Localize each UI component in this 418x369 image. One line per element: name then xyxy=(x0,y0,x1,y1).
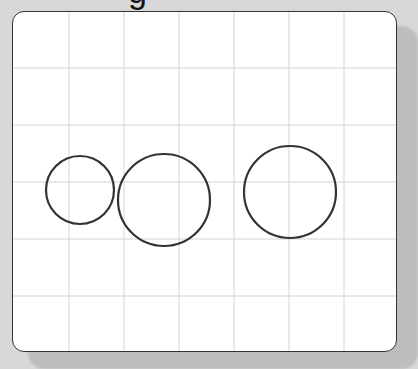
circle-1 xyxy=(46,156,114,224)
circles-group xyxy=(46,146,336,246)
grid-lines xyxy=(13,12,396,351)
title-text-fragment: g xyxy=(128,0,147,8)
grid-board xyxy=(12,11,397,352)
circle-3 xyxy=(244,146,336,238)
grid-canvas xyxy=(13,12,396,351)
circle-2 xyxy=(118,154,210,246)
